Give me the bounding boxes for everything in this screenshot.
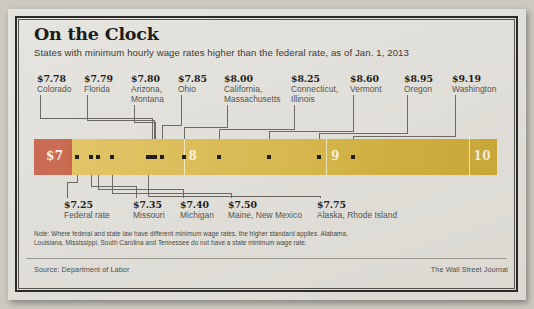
data-point-dot	[153, 155, 157, 159]
leader-vertical	[294, 105, 295, 129]
callout-amount: $8.60	[350, 73, 382, 84]
callout-state-name: Florida	[84, 84, 113, 94]
callout-above: $8.60Vermont	[350, 73, 382, 94]
callout-amount: $7.79	[84, 73, 113, 84]
callout-amount: $7.75	[317, 199, 397, 210]
callout-state-name: Oregon	[404, 84, 433, 94]
leader-horizontal	[40, 118, 153, 119]
callout-state-name: Vermont	[350, 84, 382, 94]
leader-horizontal	[162, 125, 182, 126]
leader-vertical	[320, 196, 321, 198]
leader-vertical	[67, 182, 68, 198]
data-point-dot	[75, 155, 79, 159]
data-point-dot	[182, 155, 186, 159]
leader-vertical	[87, 95, 88, 120]
callout-state-name: Washington	[452, 84, 496, 94]
callout-above: $8.25Connecticut,Illinois	[291, 73, 338, 104]
axis-label-10: 10	[474, 149, 492, 163]
axis-label-7: $7	[46, 149, 64, 163]
callout-state-name: Illinois	[291, 94, 338, 104]
leader-horizontal	[67, 182, 78, 183]
callout-above: $7.80Arizona,Montana	[131, 73, 164, 104]
leader-vertical	[227, 105, 228, 127]
leader-horizontal	[148, 196, 321, 197]
callout-below: $7.40Michigan	[180, 199, 214, 220]
callout-amount: $7.50	[228, 199, 302, 210]
callout-amount: $7.85	[178, 73, 207, 84]
leader-vertical	[40, 95, 41, 118]
callout-state-name: Arizona,	[131, 84, 164, 94]
infographic-screenshot: On the Clock States with minimum hourly …	[0, 0, 534, 309]
callout-amount: $7.78	[37, 73, 71, 84]
axis-label-9: 9	[331, 149, 340, 163]
callout-state-name: Federal rate	[64, 210, 110, 220]
callout-amount: $7.25	[64, 199, 110, 210]
callout-state-name: Missouri	[133, 210, 165, 220]
source-credit: Source: Department of Labor	[34, 265, 129, 274]
leader-horizontal	[353, 136, 456, 137]
callout-state-name: Alaska, Rhode Island	[317, 210, 397, 220]
footer-divider	[26, 258, 507, 259]
leader-vertical	[407, 95, 408, 133]
callout-above: $9.19Washington	[452, 73, 496, 94]
callout-below: $7.50Maine, New Mexico	[228, 199, 302, 220]
leader-horizontal	[219, 129, 295, 130]
callout-above: $8.00California,Massachusetts	[224, 73, 281, 104]
callout-amount: $8.25	[291, 73, 338, 84]
leader-horizontal	[98, 189, 184, 190]
callout-amount: $8.95	[404, 73, 433, 84]
page-subtitle: States with minimum hourly wage rates hi…	[34, 47, 409, 58]
leader-horizontal	[184, 127, 228, 128]
leader-horizontal	[269, 131, 354, 132]
data-point-dot	[317, 155, 321, 159]
leader-horizontal	[87, 120, 155, 121]
leader-horizontal	[134, 122, 156, 123]
callout-below: $7.35Missouri	[133, 199, 165, 220]
data-point-dot	[267, 155, 271, 159]
callout-above: $7.85Ohio	[178, 73, 207, 94]
leader-horizontal	[112, 193, 232, 194]
callout-state-name: Michigan	[180, 210, 214, 220]
callout-state-name: Colorado	[37, 84, 71, 94]
data-point-dot	[110, 155, 114, 159]
callout-amount: $7.35	[133, 199, 165, 210]
callout-amount: $7.40	[180, 199, 214, 210]
data-point-dot	[160, 155, 164, 159]
leader-vertical	[181, 95, 182, 125]
bar-gradient	[34, 139, 497, 175]
leader-horizontal	[319, 133, 408, 134]
callout-above: $8.95Oregon	[404, 73, 433, 94]
data-point-dot	[89, 155, 93, 159]
axis-label-8: 8	[189, 149, 198, 163]
data-point-dot	[351, 155, 355, 159]
callout-state-name: California,	[224, 84, 281, 94]
publication-brand: The Wall Street Journal	[431, 265, 508, 274]
leader-vertical	[455, 95, 456, 136]
data-point-dot	[96, 155, 100, 159]
callout-below: $7.75Alaska, Rhode Island	[317, 199, 397, 220]
leader-vertical	[353, 95, 354, 131]
leader-vertical	[136, 186, 137, 198]
footnote: Note: Where federal and state law have d…	[34, 229, 364, 247]
callout-state-name: Ohio	[178, 84, 207, 94]
page-title: On the Clock	[34, 24, 159, 44]
callout-state-name: Maine, New Mexico	[228, 210, 302, 220]
callout-state-name: Montana	[131, 94, 164, 104]
callout-amount: $9.19	[452, 73, 496, 84]
axis-tick-9	[326, 139, 327, 175]
wage-scale-bar: $78910	[34, 139, 497, 175]
axis-tick-10	[469, 139, 470, 175]
callout-above: $7.78Colorado	[37, 73, 71, 94]
callout-state-name: Massachusetts	[224, 94, 281, 104]
callout-below: $7.25Federal rate	[64, 199, 110, 220]
leader-vertical	[134, 105, 135, 122]
callout-above: $7.79Florida	[84, 73, 113, 94]
callout-state-name: Connecticut,	[291, 84, 338, 94]
callout-amount: $7.80	[131, 73, 164, 84]
callout-amount: $8.00	[224, 73, 281, 84]
data-point-dot	[217, 155, 221, 159]
